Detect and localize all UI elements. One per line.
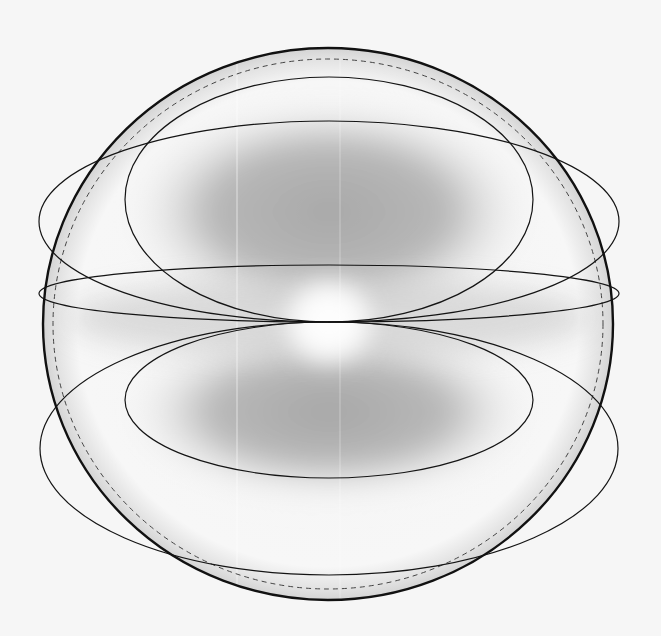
tangent-point bbox=[328, 321, 330, 323]
sphere-ellipses-diagram bbox=[0, 0, 661, 636]
diagram-canvas bbox=[0, 0, 661, 636]
